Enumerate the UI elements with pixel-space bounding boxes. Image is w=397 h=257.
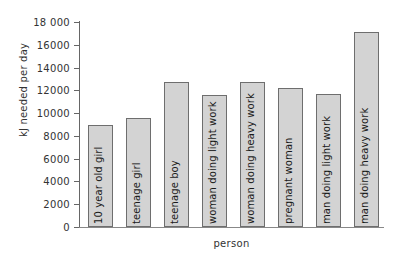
- bar-category-label: woman doing light work: [207, 101, 218, 224]
- y-tick-label: 0: [63, 222, 70, 233]
- plot-area: 020004000600080001000012000140001600018 …: [79, 21, 384, 228]
- y-axis-title: kJ needed per day: [14, 0, 34, 190]
- bar-category-label: man doing heavy work: [359, 108, 370, 224]
- x-axis-title: person: [79, 238, 384, 249]
- bar-series: 10 year old girlteenage girlteenage boyw…: [79, 21, 384, 228]
- bar-category-label: teenage girl: [131, 162, 142, 224]
- y-tick-label: 18 000: [33, 17, 70, 28]
- bar-category-label: man doing light work: [321, 116, 332, 224]
- y-tick-label: 16000: [37, 39, 70, 50]
- y-tick-label: 12000: [37, 85, 70, 96]
- bar-chart-figure: kJ needed per day 0200040006000800010000…: [0, 0, 397, 257]
- bar-category-label: teenage boy: [169, 160, 180, 224]
- y-tick-label: 14000: [37, 62, 70, 73]
- bar-category-label: 10 year old girl: [93, 147, 104, 224]
- y-tick-label: 6000: [43, 153, 70, 164]
- y-tick-label: 2000: [43, 199, 70, 210]
- y-tick-label: 4000: [43, 176, 70, 187]
- y-tick-label: 8000: [43, 130, 70, 141]
- bar-category-label: pregnant woman: [283, 137, 294, 224]
- y-tick-label: 10000: [37, 108, 70, 119]
- bar-category-label: woman doing heavy work: [245, 93, 256, 224]
